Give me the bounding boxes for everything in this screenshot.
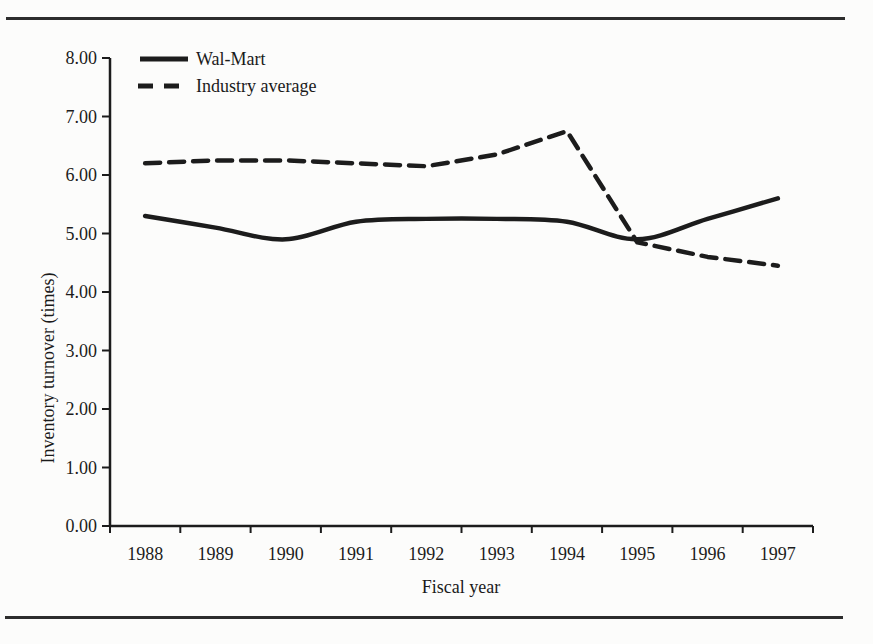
x-axis-title: Fiscal year <box>422 577 500 598</box>
legend-item-industry-average: Industry average <box>138 72 316 99</box>
x-tick-label: 1997 <box>760 544 796 564</box>
y-tick-label: 5.00 <box>66 224 98 244</box>
y-tick-label: 1.00 <box>66 458 98 478</box>
y-tick-label: 3.00 <box>66 341 98 361</box>
legend-item-walmart: Wal-Mart <box>138 45 316 72</box>
bottom-rule <box>5 616 843 619</box>
industry-average-dashed-key-line <box>138 81 190 91</box>
y-tick-label: 6.00 <box>66 165 98 185</box>
x-tick-label: 1995 <box>619 544 655 564</box>
x-tick-label: 1996 <box>690 544 726 564</box>
x-tick-label: 1994 <box>549 544 585 564</box>
y-axis-title: Inventory turnover (times) <box>38 273 59 464</box>
legend: Wal-Mart Industry average <box>138 45 316 99</box>
x-tick-label: 1990 <box>268 544 304 564</box>
x-tick-label: 1992 <box>408 544 444 564</box>
legend-label-industry-average: Industry average <box>196 77 316 95</box>
chart-plot: 0.001.002.003.004.005.006.007.008.001988… <box>0 0 873 644</box>
y-tick-label: 0.00 <box>66 516 98 536</box>
y-tick-label: 4.00 <box>66 282 98 302</box>
figure: 0.001.002.003.004.005.006.007.008.001988… <box>0 0 873 644</box>
x-tick-label: 1988 <box>127 544 163 564</box>
wal-mart-line <box>145 198 778 239</box>
legend-label-walmart: Wal-Mart <box>196 50 266 68</box>
y-tick-label: 8.00 <box>66 48 98 68</box>
x-tick-label: 1993 <box>479 544 515 564</box>
y-tick-label: 7.00 <box>66 107 98 127</box>
x-tick-label: 1989 <box>197 544 233 564</box>
x-tick-label: 1991 <box>338 544 374 564</box>
walmart-solid-key-line <box>138 54 190 64</box>
industry-average-line <box>145 131 778 266</box>
y-tick-label: 2.00 <box>66 399 98 419</box>
